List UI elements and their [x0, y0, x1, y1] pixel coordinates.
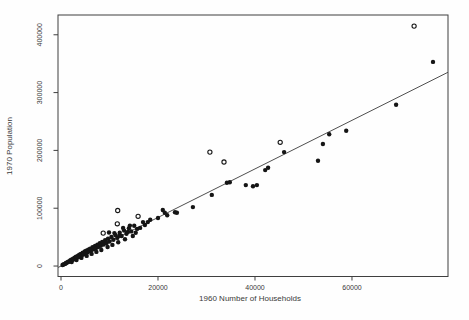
- data-point: [251, 184, 255, 188]
- data-point: [282, 150, 286, 154]
- y-axis-label: 1970 Population: [4, 87, 16, 205]
- outlier-point: [136, 214, 140, 218]
- data-point: [134, 231, 138, 235]
- data-point: [165, 213, 169, 217]
- data-point: [128, 223, 132, 227]
- scatter-plot: 0200004000060000010000020000030000040000…: [0, 0, 469, 320]
- outlier-point: [115, 222, 119, 226]
- data-point: [116, 240, 120, 244]
- data-point: [129, 229, 133, 233]
- data-point: [316, 159, 320, 163]
- outlier-point: [412, 24, 416, 28]
- outlier-point: [208, 150, 212, 154]
- data-point: [110, 243, 114, 247]
- data-point: [156, 216, 160, 220]
- data-point: [244, 183, 248, 187]
- data-point: [266, 166, 270, 170]
- data-point: [123, 237, 127, 241]
- x-axis-label: 1960 Number of Households: [130, 294, 370, 303]
- data-point: [89, 252, 93, 256]
- data-point: [228, 180, 232, 184]
- data-point: [210, 193, 214, 197]
- y-tick-label: 400000: [36, 23, 43, 46]
- outlier-point: [116, 208, 120, 212]
- data-point: [107, 230, 111, 234]
- data-point: [111, 238, 115, 242]
- x-tick-label: 60000: [342, 284, 362, 291]
- outlier-point: [101, 231, 105, 235]
- data-point: [431, 60, 435, 64]
- scatter-figure: 0200004000060000010000020000030000040000…: [0, 0, 469, 320]
- data-point: [327, 132, 331, 136]
- data-point: [99, 248, 103, 252]
- data-point: [394, 103, 398, 107]
- data-point: [255, 183, 259, 187]
- x-tick-label: 20000: [148, 284, 168, 291]
- y-tick-label: 200000: [36, 139, 43, 162]
- data-point: [94, 250, 98, 254]
- y-tick-label: 0: [36, 264, 43, 268]
- outlier-point: [278, 140, 282, 144]
- y-tick-label: 300000: [36, 81, 43, 104]
- data-point: [107, 239, 111, 243]
- outlier-point: [222, 160, 226, 164]
- x-tick-label: 40000: [245, 284, 265, 291]
- data-point: [105, 245, 109, 249]
- data-point: [119, 234, 123, 238]
- x-tick-label: 0: [59, 284, 63, 291]
- data-point: [344, 129, 348, 133]
- y-tick-label: 100000: [36, 196, 43, 219]
- data-point: [148, 218, 152, 222]
- data-point: [321, 142, 325, 146]
- data-point: [138, 226, 142, 230]
- data-point: [191, 205, 195, 209]
- data-point: [175, 211, 179, 215]
